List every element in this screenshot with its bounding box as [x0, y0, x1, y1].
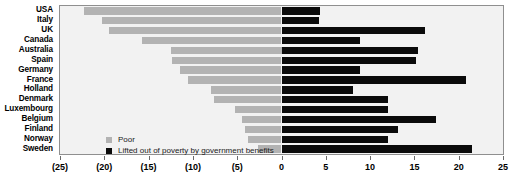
bar-lifted-italy [282, 17, 319, 24]
category-label-norway: Norway [24, 134, 53, 144]
bar-row [60, 126, 503, 133]
bar-lifted-finland [282, 126, 399, 133]
bar-poor-spain [172, 57, 282, 64]
bar-poor-italy [102, 17, 282, 24]
chart-legend: PoorLifted out of poverty by government … [106, 135, 274, 157]
legend-swatch-poor-icon [106, 137, 112, 143]
bar-row [60, 57, 503, 64]
bar-row [60, 86, 503, 93]
x-tick-label: 15 [409, 162, 419, 172]
bar-lifted-norway [282, 136, 388, 143]
bar-row [60, 66, 503, 73]
bar-lifted-sweden [282, 145, 472, 152]
x-tick-mark [282, 156, 283, 160]
x-tick-label: 0 [279, 162, 284, 172]
bar-row [60, 76, 503, 83]
bar-poor-finland [245, 126, 281, 133]
x-tick-mark [503, 156, 504, 160]
plot-area [59, 5, 504, 155]
category-label-italy: Italy [37, 15, 53, 25]
bar-lifted-holland [282, 86, 354, 93]
legend-label: Lifted out of poverty by government bene… [118, 146, 274, 156]
bar-lifted-usa [282, 7, 321, 14]
category-label-spain: Spain [31, 55, 53, 65]
x-tick-label: 25 [498, 162, 508, 172]
bar-poor-luxembourg [235, 106, 281, 113]
bar-row [60, 96, 503, 103]
bar-lifted-spain [282, 57, 417, 64]
category-label-finland: Finland [25, 124, 53, 134]
x-tick-label: 5 [323, 162, 328, 172]
category-label-france: France [27, 75, 53, 85]
category-label-usa: USA [36, 5, 53, 15]
bar-row [60, 106, 503, 113]
bars-container [60, 6, 503, 154]
bar-row [60, 27, 503, 34]
bar-poor-canada [142, 37, 282, 44]
legend-swatch-lifted-icon [106, 148, 112, 154]
category-label-uk: UK [41, 25, 53, 35]
x-tick-mark [149, 156, 150, 160]
x-tick-mark [414, 156, 415, 160]
bar-lifted-denmark [282, 96, 388, 103]
category-label-canada: Canada [24, 35, 53, 45]
bar-row [60, 116, 503, 123]
x-tick-mark [326, 156, 327, 160]
bar-lifted-canada [282, 37, 361, 44]
bar-poor-australia [171, 47, 282, 54]
bar-poor-germany [180, 66, 282, 73]
bar-lifted-germany [282, 66, 361, 73]
x-tick-mark [370, 156, 371, 160]
bar-poor-uk [109, 27, 282, 34]
category-label-australia: Australia [19, 45, 53, 55]
x-tick-label: (20) [96, 162, 112, 172]
bar-poor-holland [211, 86, 282, 93]
bar-poor-usa [84, 7, 282, 14]
bar-lifted-belgium [282, 116, 436, 123]
x-tick-mark [193, 156, 194, 160]
x-tick-label: (15) [141, 162, 157, 172]
x-tick-mark [60, 156, 61, 160]
category-label-holland: Holland [24, 84, 53, 94]
bar-lifted-france [282, 76, 466, 83]
category-axis-labels: USAItalyUKCanadaAustraliaSpainGermanyFra… [0, 5, 55, 155]
bar-lifted-luxembourg [282, 106, 388, 113]
x-tick-mark [237, 156, 238, 160]
x-tick-label: 20 [454, 162, 464, 172]
category-label-denmark: Denmark [19, 94, 53, 104]
bar-poor-denmark [214, 96, 281, 103]
bar-row [60, 17, 503, 24]
x-tick-label: (25) [52, 162, 68, 172]
category-label-belgium: Belgium [21, 114, 53, 124]
bar-lifted-australia [282, 47, 418, 54]
bar-row [60, 47, 503, 54]
bar-row [60, 37, 503, 44]
bar-lifted-uk [282, 27, 426, 34]
x-tick-label: (10) [185, 162, 201, 172]
x-tick-mark [104, 156, 105, 160]
legend-label: Poor [118, 135, 135, 145]
x-tick-mark [459, 156, 460, 160]
legend-item-poor: Poor [106, 135, 274, 145]
bar-poor-belgium [242, 116, 282, 123]
x-axis: (25)(20)(15)(10)(5)0510152025 [59, 156, 504, 177]
category-label-germany: Germany [18, 65, 53, 75]
category-label-luxembourg: Luxembourg [4, 104, 53, 114]
x-tick-label: (5) [232, 162, 243, 172]
legend-item-lifted: Lifted out of poverty by government bene… [106, 146, 274, 156]
diverging-bar-chart: USAItalyUKCanadaAustraliaSpainGermanyFra… [0, 0, 518, 177]
bar-poor-france [188, 76, 281, 83]
x-tick-label: 10 [365, 162, 375, 172]
category-label-sweden: Sweden [23, 144, 53, 154]
bar-row [60, 7, 503, 14]
